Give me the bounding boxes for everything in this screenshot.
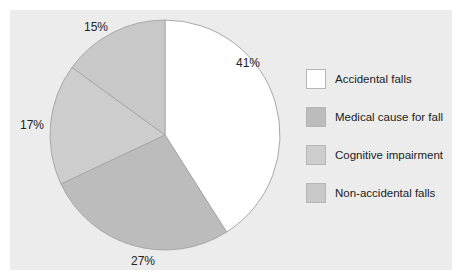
label-medical-cause: 27% [131,254,155,268]
legend-label: Cognitive impairment [335,149,443,161]
label-accidental-falls: 41% [236,56,260,70]
legend-label: Medical cause for fall [335,111,443,123]
label-cognitive-impairment: 17% [20,118,44,132]
legend-swatch [306,183,326,203]
label-non-accidental-falls: 15% [84,20,108,34]
legend-swatch [306,145,326,165]
legend-item-medical-cause: Medical cause for fall [306,106,443,127]
legend-item-accidental-falls: Accidental falls [306,68,443,89]
legend-swatch [306,69,326,89]
legend-label: Non-accidental falls [335,187,435,199]
legend: Accidental falls Medical cause for fall … [306,68,443,220]
legend-item-non-accidental-falls: Non-accidental falls [306,182,443,203]
legend-label: Accidental falls [335,73,412,85]
legend-item-cognitive-impairment: Cognitive impairment [306,144,443,165]
pie-slices [50,20,280,250]
legend-swatch [306,107,326,127]
